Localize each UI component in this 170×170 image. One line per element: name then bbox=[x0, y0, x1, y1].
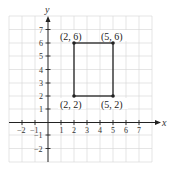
svg-text:2: 2 bbox=[39, 92, 43, 101]
label-2-2: (2, 2) bbox=[60, 99, 82, 111]
svg-text:5: 5 bbox=[39, 52, 43, 61]
y-tick-labels: 7 6 5 4 3 2 1 −1 −2 bbox=[34, 26, 43, 154]
x-axis-arrow-icon bbox=[155, 120, 161, 125]
svg-text:4: 4 bbox=[39, 66, 43, 75]
svg-text:6: 6 bbox=[124, 126, 128, 135]
label-5-2: (5, 2) bbox=[101, 99, 123, 111]
y-axis-arrow-icon bbox=[46, 16, 51, 22]
svg-text:6: 6 bbox=[39, 39, 43, 48]
svg-text:7: 7 bbox=[137, 126, 141, 135]
label-5-6: (5, 6) bbox=[101, 31, 123, 43]
label-2-6: (2, 6) bbox=[60, 31, 82, 43]
vertex-2-6 bbox=[72, 41, 76, 45]
svg-text:−2: −2 bbox=[34, 145, 43, 154]
svg-text:1: 1 bbox=[39, 105, 43, 114]
svg-text:−2: −2 bbox=[17, 126, 26, 135]
svg-text:3: 3 bbox=[85, 126, 89, 135]
vertex-5-2 bbox=[111, 94, 115, 98]
svg-text:3: 3 bbox=[39, 79, 43, 88]
x-axis-label: x bbox=[161, 117, 167, 128]
svg-text:2: 2 bbox=[72, 126, 76, 135]
y-axis-label: y bbox=[44, 4, 50, 15]
svg-text:5: 5 bbox=[111, 126, 115, 135]
vertex-2-2 bbox=[72, 94, 76, 98]
coordinate-plane: x y −2 −1 1 2 3 4 5 6 7 7 6 5 bbox=[0, 0, 170, 170]
svg-text:4: 4 bbox=[98, 126, 102, 135]
svg-text:7: 7 bbox=[39, 26, 43, 35]
vertex-5-6 bbox=[111, 41, 115, 45]
svg-text:−1: −1 bbox=[34, 131, 43, 140]
svg-text:1: 1 bbox=[60, 126, 64, 135]
